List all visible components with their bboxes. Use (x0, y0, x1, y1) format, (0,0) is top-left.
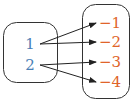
domain-value: 1 (25, 35, 35, 53)
range-value: −3 (99, 53, 121, 71)
mapping-arrows (40, 23, 96, 82)
domain-value: 2 (25, 56, 35, 74)
range-value: −4 (99, 73, 121, 91)
range-value: −2 (99, 33, 121, 51)
range-value: −1 (99, 14, 121, 32)
range-values: −1−2−3−4 (99, 14, 121, 91)
domain-values: 12 (25, 35, 35, 74)
mapping-arrow (40, 62, 96, 65)
mapping-arrow (40, 65, 96, 82)
mapping-diagram: 12 −1−2−3−4 (0, 0, 136, 103)
mapping-arrow (40, 42, 96, 44)
mapping-arrow (40, 23, 96, 44)
